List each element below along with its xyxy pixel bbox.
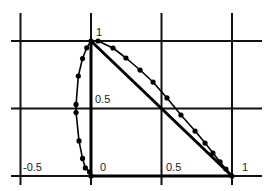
tick-label-x-neg-0.5: -0.5	[23, 161, 42, 173]
data-point-marker	[110, 45, 115, 50]
gridlines	[11, 13, 262, 185]
data-point-marker	[164, 95, 169, 100]
data-point-marker	[229, 173, 234, 178]
data-point-marker	[192, 128, 197, 133]
data-point-marker	[76, 74, 81, 79]
tick-label-y-1: 1	[96, 26, 102, 38]
data-point-marker	[95, 38, 100, 43]
data-point-marker	[210, 150, 215, 155]
tick-label-x-0.5: 0.5	[166, 161, 181, 173]
data-point-marker	[123, 55, 128, 60]
data-point-marker	[84, 45, 89, 50]
chart-area: 1 0.5 -0.5 0 0.5 1	[0, 0, 273, 191]
data-point-marker	[217, 159, 222, 164]
data-point-marker	[150, 79, 155, 84]
data-point-marker	[83, 165, 88, 170]
data-point-marker	[80, 156, 85, 161]
tick-label-x-1: 1	[242, 161, 248, 173]
data-point-marker	[202, 140, 207, 145]
data-point-marker	[88, 38, 93, 43]
data-point-marker	[80, 56, 85, 61]
data-point-marker	[87, 169, 92, 174]
tick-label-y-0.5: 0.5	[95, 93, 110, 105]
data-point-marker	[223, 166, 228, 171]
tick-label-x-0: 0	[100, 161, 106, 173]
data-point-marker	[73, 102, 78, 107]
data-point-marker	[178, 112, 183, 117]
data-point-marker	[76, 138, 81, 143]
data-point-marker	[73, 110, 78, 115]
data-point-marker	[137, 67, 142, 72]
plot-svg: 1 0.5 -0.5 0 0.5 1	[0, 0, 273, 191]
